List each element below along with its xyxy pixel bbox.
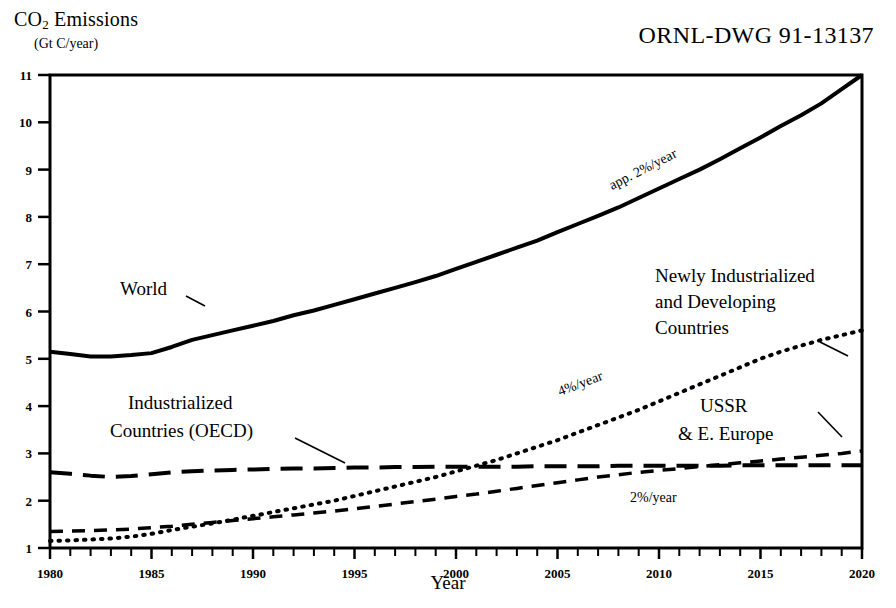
y-tick-label: 5	[26, 352, 33, 367]
developing-label-line3: Countries	[655, 317, 729, 338]
series-line-world	[50, 75, 862, 356]
plot-canvas: 1234567891011 19801985199019952000200520…	[0, 0, 896, 608]
y-tick-label: 9	[26, 163, 33, 178]
y-axis-title-main: CO	[14, 8, 42, 30]
chart-figure: CO2 Emissions (Gt C/year) ORNL-DWG 91-13…	[0, 0, 896, 608]
world-pointer	[186, 296, 205, 306]
x-axis-title: Year	[0, 572, 896, 594]
ussr-label-line2: & E. Europe	[678, 423, 774, 444]
annotation-text-layer: Worldapp. 2%/yearNewly Industrializedand…	[110, 146, 815, 505]
developing-pointer	[820, 342, 848, 356]
ussr-rate: 2%/year	[630, 490, 677, 505]
y-tick-label: 6	[26, 305, 33, 320]
y-tick-label: 3	[26, 446, 33, 461]
y-tick-label: 4	[26, 399, 33, 414]
y-axis-units: (Gt C/year)	[34, 36, 98, 52]
y-axis-title-rest: Emissions	[49, 8, 138, 30]
y-tick-label: 2	[26, 494, 33, 509]
y-tick-label: 10	[19, 115, 32, 130]
oecd-pointer	[295, 438, 345, 463]
world-label: World	[120, 278, 168, 299]
drawing-code: ORNL-DWG 91-13137	[639, 22, 874, 49]
developing-label-line1: Newly Industrialized	[655, 265, 815, 286]
y-tick-label: 8	[26, 210, 33, 225]
series-line-industrialized-countries-oecd	[50, 465, 862, 477]
y-tick-label: 7	[26, 257, 33, 272]
series-line-ussr-e-europe	[50, 451, 862, 531]
y-tick-label: 11	[20, 68, 32, 83]
ussr-pointer	[818, 412, 842, 437]
y-axis-ticks: 1234567891011	[19, 68, 50, 556]
y-axis-title-subscript: 2	[42, 17, 49, 32]
oecd-label-line2: Countries (OECD)	[110, 420, 253, 442]
developing-rate: 4%/year	[556, 368, 605, 399]
developing-label-line2: and Developing	[655, 291, 776, 312]
ussr-label-line1: USSR	[700, 395, 748, 416]
oecd-label-line1: Industrialized	[128, 392, 233, 413]
y-tick-label: 1	[26, 541, 33, 556]
y-axis-title: CO2 Emissions	[14, 8, 138, 31]
